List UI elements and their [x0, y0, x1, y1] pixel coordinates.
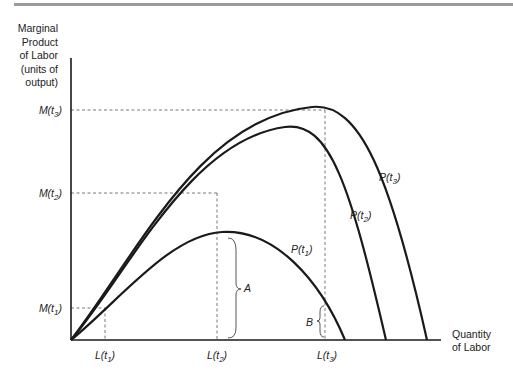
curve-label-p3: P(t3) [379, 171, 400, 186]
x-tick-l2: L(t2) [207, 349, 227, 364]
curve-label-p1: P(t1) [291, 243, 312, 258]
curve-p2 [71, 127, 386, 340]
brace-b [317, 306, 324, 337]
y-tick-m2: M(t2) [39, 187, 62, 202]
production-diagram: M(t3) M(t2) M(t1) L(t1) L(t2) L(t3) P(t1… [0, 0, 513, 382]
x-tick-l1: L(t1) [95, 349, 115, 364]
curve-label-p2: P(t2) [350, 209, 371, 224]
y-tick-m1: M(t1) [39, 302, 62, 317]
y-tick-m3: M(t3) [39, 104, 62, 119]
curves [71, 107, 427, 340]
curve-p3 [71, 107, 427, 340]
brace-label-b: B [306, 316, 313, 328]
brace-a [228, 238, 241, 338]
x-tick-l3: L(t3) [317, 349, 337, 364]
brace-label-a: A [243, 282, 251, 294]
